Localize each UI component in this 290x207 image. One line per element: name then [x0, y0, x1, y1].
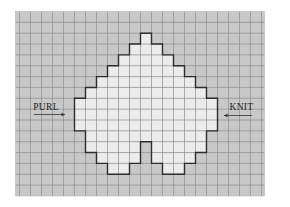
motif-span: [108, 66, 185, 77]
knit-label: KNIT: [230, 102, 254, 112]
motif-span: [86, 142, 141, 153]
motif-span: [86, 131, 207, 142]
knitting-chart: PURL KNIT: [0, 0, 290, 207]
motif-span: [141, 33, 152, 44]
motif-span: [97, 77, 196, 88]
motif-span: [130, 44, 163, 55]
purl-label: PURL: [33, 102, 58, 112]
motif-span: [75, 98, 218, 109]
motif-span: [75, 109, 218, 120]
motif-span: [75, 120, 218, 131]
motif-span: [86, 87, 207, 98]
motif-span: [152, 142, 207, 153]
motif-span: [119, 55, 174, 66]
